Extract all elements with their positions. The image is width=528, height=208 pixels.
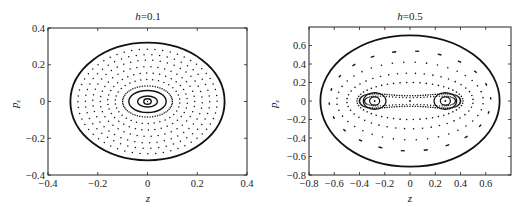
separatrix-point — [402, 104, 403, 105]
section-point — [481, 109, 483, 111]
section-point — [403, 61, 405, 63]
section-point — [121, 58, 123, 60]
separatrix-point — [425, 94, 427, 96]
separatrix-point — [452, 94, 454, 96]
section-point — [107, 137, 109, 139]
section-point — [171, 99, 173, 101]
section-point — [121, 88, 123, 90]
separatrix-point — [368, 93, 370, 95]
section-point — [115, 95, 117, 97]
separatrix-point — [448, 93, 450, 95]
panel-h01: h=0.1 −0.4−0.200.20.4−0.4−0.200.20.4 z p… — [8, 10, 254, 204]
section-point — [339, 75, 341, 77]
section-point — [426, 83, 428, 85]
section-point — [127, 92, 129, 94]
section-point — [144, 85, 146, 87]
section-point — [197, 74, 199, 76]
section-point — [387, 117, 389, 119]
separatrix-point — [430, 105, 431, 106]
section-point — [85, 95, 87, 97]
y-tick-label: 0.2 — [32, 59, 45, 70]
section-point — [187, 65, 189, 67]
separatrix-point — [412, 95, 414, 97]
section-point — [471, 95, 473, 97]
section-point — [430, 126, 432, 128]
separatrix-point — [394, 94, 396, 96]
separatrix-point — [439, 95, 440, 96]
section-point — [101, 133, 103, 135]
section-point — [84, 78, 86, 80]
section-point — [101, 78, 103, 80]
section-point — [159, 87, 161, 89]
section-point — [124, 85, 126, 87]
separatrix-point — [444, 105, 445, 106]
separatrix-point — [373, 93, 375, 95]
section-point — [456, 91, 458, 93]
section-point — [129, 126, 131, 128]
section-point — [129, 82, 131, 84]
separatrix-point — [386, 107, 388, 109]
section-point — [165, 111, 167, 113]
section-point — [167, 62, 169, 64]
separatrix-point — [367, 97, 368, 98]
separatrix-point — [413, 97, 414, 98]
section-point — [142, 147, 144, 149]
section-point — [164, 119, 166, 121]
section-point — [139, 73, 141, 75]
section-point — [147, 116, 149, 118]
fixed-point — [147, 101, 148, 102]
section-point — [209, 78, 211, 80]
separatrix-point — [399, 97, 400, 98]
section-point — [197, 129, 199, 131]
section-point — [135, 147, 137, 149]
section-point — [452, 89, 454, 91]
y-tick-label: −0.6 — [287, 151, 306, 162]
section-point — [126, 117, 128, 119]
section-point — [198, 85, 200, 87]
section-point — [438, 85, 440, 87]
separatrix-point — [375, 105, 376, 106]
section-point — [474, 71, 476, 73]
section-point — [149, 142, 151, 144]
section-point — [175, 90, 177, 92]
section-point — [194, 101, 196, 103]
section-point — [381, 64, 383, 66]
y-tick-label: −0.2 — [287, 114, 306, 125]
section-point — [166, 126, 168, 128]
section-point — [177, 120, 179, 122]
section-point — [439, 125, 441, 127]
section-point — [199, 113, 201, 115]
separatrix-point — [441, 107, 443, 109]
separatrix-point — [367, 104, 368, 105]
section-point — [136, 55, 138, 57]
section-point — [167, 110, 169, 112]
separatrix-point — [441, 93, 443, 95]
section-point — [146, 72, 148, 74]
section-point — [333, 116, 334, 118]
separatrix-point — [367, 94, 369, 96]
section-point — [348, 94, 350, 96]
section-point — [117, 74, 119, 76]
section-point — [443, 114, 445, 116]
section-point — [172, 87, 174, 89]
section-point — [359, 140, 362, 142]
separatrix-point — [366, 103, 367, 104]
section-point — [186, 120, 188, 122]
section-point — [107, 64, 109, 66]
x-tick-label: 0.6 — [479, 178, 492, 189]
section-point — [132, 152, 134, 154]
section-point — [192, 133, 194, 135]
section-point — [137, 86, 139, 88]
section-point — [85, 106, 87, 108]
section-point — [208, 107, 210, 109]
section-point — [382, 136, 384, 138]
section-point — [460, 84, 462, 86]
separatrix-point — [430, 106, 432, 108]
section-point — [154, 86, 156, 88]
section-point — [130, 120, 132, 122]
section-point — [362, 130, 364, 132]
x-tick-label: −0.4 — [350, 178, 370, 189]
section-point — [452, 111, 454, 113]
section-point — [201, 108, 203, 110]
section-point — [85, 100, 87, 102]
